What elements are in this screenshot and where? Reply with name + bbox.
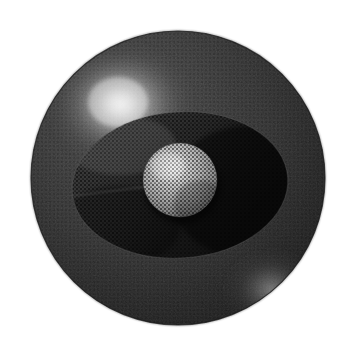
sphere-illustration (0, 0, 358, 348)
image-canvas: Dark shaded sphere with a bright specula… (0, 0, 358, 348)
